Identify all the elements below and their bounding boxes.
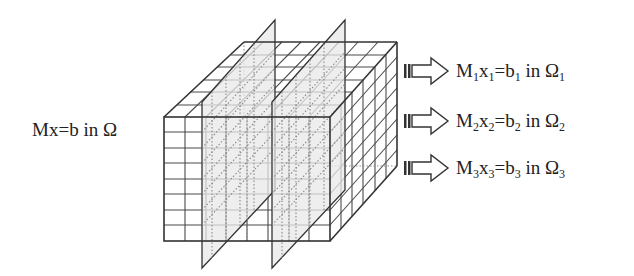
- subproblem-1-label: M1x1=b1 in Ω1: [456, 60, 565, 82]
- subproblem-3-label: M3x3=b3 in Ω3: [456, 157, 565, 179]
- block-arrow-icon: [403, 106, 453, 136]
- subproblem-2-label: M2x2=b2 in Ω2: [456, 110, 565, 132]
- block-arrow-icon: [403, 56, 453, 86]
- global-problem-label: Mx=b in Ω: [32, 119, 117, 141]
- block-arrow-icon: [403, 153, 453, 183]
